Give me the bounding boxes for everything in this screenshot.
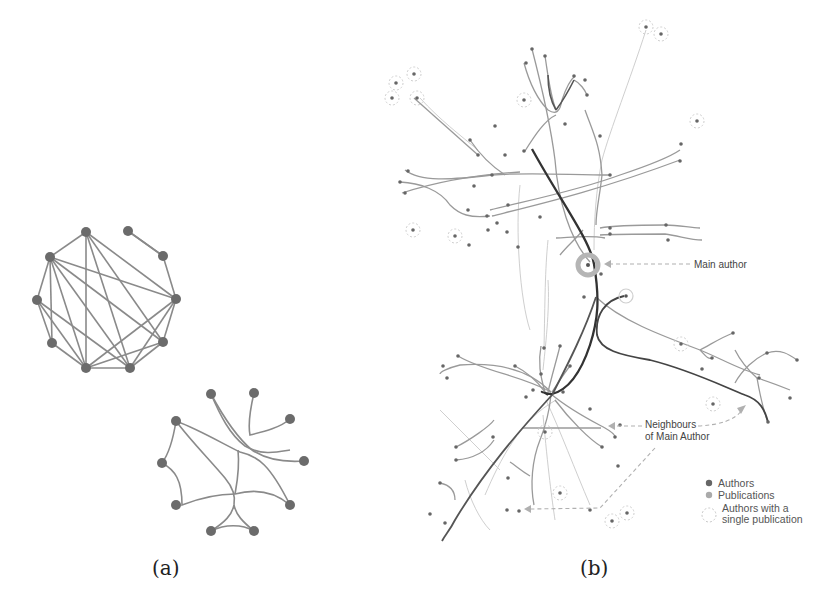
graph-edge [37, 300, 86, 368]
author-node [585, 93, 589, 97]
author-node [679, 142, 683, 146]
graph-node [81, 363, 91, 373]
graph-node [285, 500, 295, 510]
author-node [486, 228, 490, 232]
author-node [563, 122, 567, 126]
author-node [695, 119, 699, 123]
author-node [505, 230, 509, 234]
author-node [412, 72, 416, 76]
author-node [538, 215, 542, 219]
graph-node [171, 294, 181, 304]
single-publication-legend-ring-icon [702, 508, 716, 522]
graph-edge [130, 342, 163, 368]
neighbours-label-line2: of Main Author [645, 431, 710, 442]
author-node [476, 153, 480, 157]
faint-edges [420, 30, 646, 530]
author-node [517, 509, 521, 513]
author-node [491, 435, 495, 439]
graph-node [123, 226, 133, 236]
author-node [522, 149, 526, 153]
author-node [659, 32, 663, 36]
author-node [438, 481, 442, 485]
legend: Authors Publications Authors with a sing… [702, 477, 803, 525]
arrowhead-icon [608, 422, 615, 430]
author-node [539, 372, 543, 376]
author-node [608, 173, 612, 177]
author-node [558, 344, 562, 348]
author-node [472, 184, 476, 188]
author-node [516, 245, 520, 249]
medium-edges [400, 49, 797, 505]
author-node [453, 234, 457, 238]
author-node [582, 295, 586, 299]
author-node [490, 173, 494, 177]
caption-a: (a) [152, 556, 180, 580]
bundled-edge [235, 491, 290, 505]
legend-single-publication-line2: single publication [722, 513, 803, 525]
straight-edge-graph [32, 226, 181, 373]
author-node [644, 25, 648, 29]
graph-node [158, 251, 168, 261]
graph-node [249, 526, 259, 536]
graph-edge [86, 299, 176, 368]
author-node [561, 390, 565, 394]
arrowhead-icon [737, 405, 746, 414]
author-node [495, 221, 499, 225]
bundled-graph-nodes [157, 388, 309, 536]
graph-node [158, 337, 168, 347]
graph-edge [50, 232, 86, 257]
author-node [441, 364, 445, 368]
author-node [445, 376, 449, 380]
graph-node [249, 388, 259, 398]
author-node [394, 81, 398, 85]
author-node [493, 124, 497, 128]
author-node [428, 512, 432, 516]
annotation-arrows [530, 264, 742, 509]
strong-edges [442, 75, 768, 541]
graph-node [45, 252, 55, 262]
author-node [608, 232, 612, 236]
author-node [766, 420, 770, 424]
bundled-edge-graph [162, 393, 304, 531]
author-node [506, 476, 510, 480]
author-node [666, 238, 670, 242]
author-node [503, 153, 507, 157]
author-node [524, 395, 528, 399]
graph-node [171, 416, 181, 426]
author-node [765, 351, 769, 355]
author-node [710, 356, 714, 360]
author-node [443, 521, 447, 525]
author-node [524, 61, 528, 65]
author-node [598, 134, 602, 138]
author-node [406, 169, 410, 173]
author-node [568, 364, 572, 368]
panel-a [32, 226, 309, 536]
author-node [558, 491, 562, 495]
graph-node [32, 295, 42, 305]
graph-edge [130, 299, 176, 368]
author-node [513, 364, 517, 368]
graph-edge [128, 231, 163, 256]
graph-node [285, 414, 295, 424]
bundled-edge [249, 393, 290, 435]
figure-canvas: Main author Neighbours of Main Author Au… [0, 0, 829, 608]
arrowhead-icon [524, 505, 531, 513]
neighbours-label-line1: Neighbours [645, 419, 696, 430]
author-node [583, 78, 587, 82]
graph-edge [163, 256, 176, 299]
author-node [454, 458, 458, 462]
author-node [467, 243, 471, 247]
author-node [625, 511, 629, 515]
author-node [599, 272, 603, 276]
author-node [468, 138, 472, 142]
bundled-edge [162, 463, 235, 505]
author-node [506, 203, 510, 207]
author-node [542, 346, 546, 350]
graph-node [171, 500, 181, 510]
neighbours-arrow-right [698, 410, 742, 426]
author-node [485, 214, 489, 218]
author-node [390, 96, 394, 100]
graph-node [125, 363, 135, 373]
author-node [530, 47, 534, 51]
bundled-edge [235, 450, 239, 494]
